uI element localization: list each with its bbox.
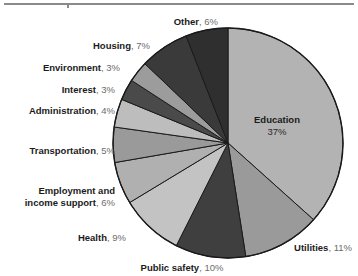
pie-label-other: Other, 6% [118, 16, 218, 28]
pie-label-interest-percent: 3% [101, 84, 115, 95]
pie-label-administration: Administration, 4% [8, 105, 115, 117]
pie-label-employment: Employment and income support, 6% [2, 185, 115, 208]
pie-label-environment: Environment, 3% [15, 62, 120, 74]
chart-page: Other, 6% Housing, 7% Environment, 3% In… [0, 0, 358, 276]
pie-label-education-percent: 37% [267, 126, 286, 137]
pie-label-health-category: Health [78, 232, 107, 243]
pie-label-environment-percent: 3% [106, 62, 120, 73]
pie-label-employment-percent: 6% [101, 197, 115, 208]
pie-label-transportation: Transportation, 5% [4, 145, 115, 157]
pie-label-public-safety: Public safety, 10% [127, 262, 237, 274]
pie-label-other-percent: 6% [204, 16, 218, 27]
pie-label-employment-category-line2: income support [25, 197, 96, 208]
pie-label-interest: Interest, 3% [25, 84, 115, 96]
pie-label-transportation-category: Transportation [29, 145, 96, 156]
pie-label-interest-category: Interest [62, 84, 96, 95]
pie-label-utilities-category: Utilities [294, 242, 328, 253]
pie-label-education-category: Education [254, 114, 300, 125]
pie-label-environment-category: Environment [43, 62, 101, 73]
pie-label-employment-category-line1: Employment and [38, 185, 115, 196]
pie-label-health: Health, 9% [26, 232, 126, 244]
pie-label-utilities-percent: 11% [334, 242, 352, 253]
pie-label-public-safety-category: Public safety [141, 262, 200, 273]
pie-label-housing-category: Housing [93, 40, 131, 51]
pie-label-administration-percent: 4% [101, 105, 115, 116]
pie-label-education: Education 37% [234, 114, 320, 137]
pie-label-health-percent: 9% [112, 232, 126, 243]
pie-label-public-safety-percent: 10% [204, 262, 223, 273]
pie-label-administration-category: Administration [29, 105, 96, 116]
pie-label-utilities: Utilities, 11% [266, 242, 352, 254]
pie-label-other-category: Other [174, 16, 199, 27]
pie-label-housing-percent: 7% [136, 40, 150, 51]
pie-label-transportation-percent: 5% [101, 145, 115, 156]
pie-label-housing: Housing, 7% [50, 40, 150, 52]
